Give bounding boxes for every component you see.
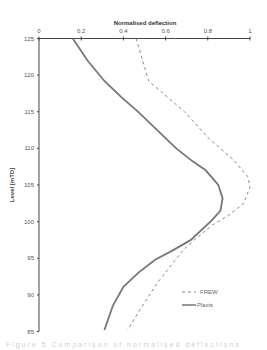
chart-title: Normalised deflection: [114, 20, 177, 26]
frew-series-line: [128, 39, 250, 331]
x-tick-label: 0.6: [161, 28, 170, 34]
x-tick-label: 1: [248, 28, 252, 34]
y-tick-label: 85: [27, 329, 34, 335]
legend-frew-label: FREW: [200, 289, 218, 295]
deflection-chart: Normalised deflection 00.20.40.60.81 125…: [0, 0, 267, 350]
y-tick-label: 105: [24, 182, 35, 188]
figure-caption: Figure 5 Comparison of normalised deflec…: [6, 341, 241, 348]
y-tick-label: 110: [24, 145, 34, 151]
plaxis-series-line: [73, 39, 223, 331]
y-axis-label: Level [mTD]: [9, 168, 15, 202]
y-tick-label: 120: [24, 72, 35, 78]
y-tick-label: 95: [27, 255, 34, 261]
y-tick-label: 125: [24, 36, 35, 42]
y-tick-label: 115: [24, 109, 34, 115]
x-tick-label: 0.2: [77, 28, 86, 34]
legend-plaxis-label: Plaxis: [197, 302, 213, 308]
y-axis-ticks: 125120115110105100959085: [24, 36, 39, 335]
x-tick-label: 0: [37, 28, 41, 34]
x-tick-label: 0.4: [119, 28, 128, 34]
x-tick-label: 0.8: [204, 28, 213, 34]
y-tick-label: 90: [27, 292, 34, 298]
y-tick-label: 100: [24, 219, 35, 225]
legend: FREW Plaxis: [182, 289, 218, 308]
